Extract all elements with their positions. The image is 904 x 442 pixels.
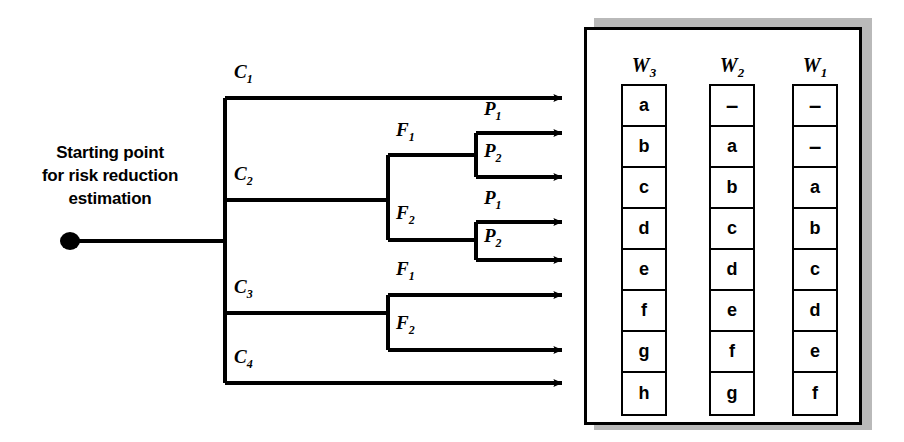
- label-c2-f1-p2: P2: [484, 141, 502, 164]
- label-c2-f2-p1: P1: [484, 188, 502, 211]
- label-c3-f2: F2: [396, 313, 415, 336]
- label-c2-f2: F2: [396, 203, 415, 226]
- label-c2: C2: [234, 164, 253, 187]
- diagram-canvas: W3 a b c d e f g h W2 – a b c d: [0, 0, 904, 442]
- label-c3: C3: [234, 277, 253, 300]
- start-label-line-3: estimation: [68, 189, 151, 208]
- label-c2-f1: F1: [396, 120, 415, 143]
- label-c3-f1: F1: [396, 259, 415, 282]
- label-c1: C1: [234, 62, 253, 85]
- label-c4: C4: [234, 347, 253, 370]
- label-c2-f2-p2: P2: [484, 226, 502, 249]
- event-tree-lines: [0, 0, 904, 442]
- start-dot: [60, 232, 80, 250]
- start-label-line-2: for risk reduction: [42, 166, 178, 185]
- start-label-line-1: Starting point: [56, 143, 164, 162]
- label-c2-f1-p1: P1: [484, 99, 502, 122]
- start-point-label: Starting point for risk reduction estima…: [2, 142, 218, 211]
